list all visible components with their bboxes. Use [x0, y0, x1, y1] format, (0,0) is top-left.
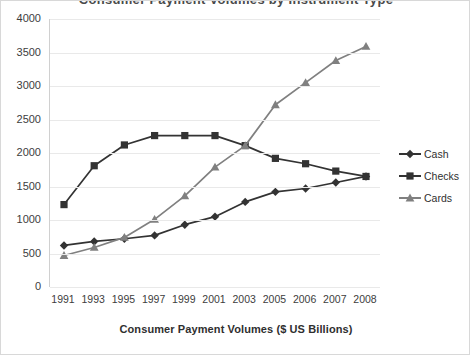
gridline	[50, 254, 380, 255]
square-marker	[181, 132, 188, 139]
gridline	[50, 19, 380, 20]
square-marker	[60, 201, 67, 208]
chart-title-text: Consumer Payment Volumes by Instrument T…	[79, 1, 393, 6]
y-axis-labels: 05001000150020002500300035004000	[1, 1, 45, 355]
x-axis-tick-label: 1997	[142, 293, 165, 305]
x-axis-tick-label: 1999	[172, 293, 195, 305]
diamond-marker	[60, 241, 68, 249]
gridline	[50, 53, 380, 54]
gridline	[50, 153, 380, 154]
square-marker	[362, 173, 369, 180]
gridline	[50, 120, 380, 121]
x-axis-tick-label: 2008	[353, 293, 376, 305]
x-axis-tick-label: 2003	[233, 293, 256, 305]
plot-area	[49, 19, 379, 287]
square-marker	[272, 155, 279, 162]
gridline	[50, 287, 380, 288]
y-axis-tick-label: 0	[3, 281, 41, 292]
x-axis-tick-label: 1993	[82, 293, 105, 305]
triangle-marker	[406, 193, 415, 201]
legend-label: Cards	[424, 192, 452, 204]
legend-label: Checks	[424, 170, 459, 182]
gridline	[50, 86, 380, 87]
diamond-marker	[403, 148, 417, 160]
series-cards	[60, 42, 371, 259]
legend-item-cards[interactable]: Cards	[399, 189, 469, 206]
diamond-marker	[150, 231, 158, 239]
triangle-marker	[362, 42, 371, 50]
plot-canvas	[49, 19, 379, 287]
legend-swatch	[399, 192, 421, 204]
diamond-marker	[271, 188, 279, 196]
x-axis-tick-label: 2005	[263, 293, 286, 305]
y-axis-tick-label: 3000	[3, 80, 41, 91]
legend-swatch	[399, 148, 421, 160]
y-axis-tick-label: 2000	[3, 147, 41, 158]
square-marker	[211, 132, 218, 139]
diamond-marker	[241, 198, 249, 206]
series-line	[64, 46, 366, 255]
diamond-marker	[332, 178, 340, 186]
x-axis-tick-label: 2001	[202, 293, 225, 305]
square-marker	[121, 141, 128, 148]
legend-label: Cash	[424, 148, 449, 160]
legend-swatch	[399, 170, 421, 182]
y-axis-tick-label: 500	[3, 248, 41, 259]
square-marker	[403, 170, 417, 182]
x-axis-tick-label: 1991	[51, 293, 74, 305]
series-cash	[60, 172, 370, 249]
triangle-marker	[211, 163, 220, 171]
chart-frame: Consumer Payment Volumes by Instrument T…	[0, 0, 470, 355]
legend-item-cash[interactable]: Cash	[399, 145, 469, 162]
square-marker	[302, 160, 309, 167]
y-axis-tick-label: 4000	[3, 13, 41, 24]
x-axis-tick-label: 1995	[112, 293, 135, 305]
triangle-marker	[120, 233, 129, 241]
y-axis-tick-label: 1500	[3, 181, 41, 192]
x-axis-labels: 1991199319951997199920012003200520062007…	[49, 293, 379, 309]
diamond-marker	[301, 184, 309, 192]
chart-title-cropped: Consumer Payment Volumes by Instrument T…	[1, 1, 470, 10]
square-marker	[151, 132, 158, 139]
square-marker	[406, 172, 413, 179]
square-marker	[332, 167, 339, 174]
y-axis-tick-label: 3500	[3, 47, 41, 58]
triangle-marker	[403, 192, 417, 204]
x-axis-title: Consumer Payment Volumes ($ US Billions)	[1, 323, 470, 335]
square-marker	[91, 162, 98, 169]
diamond-marker	[181, 220, 189, 228]
gridline	[50, 187, 380, 188]
x-axis-tick-label: 2006	[293, 293, 316, 305]
chart-legend: CashChecksCards	[399, 145, 469, 211]
gridline	[50, 220, 380, 221]
y-axis-tick-label: 1000	[3, 214, 41, 225]
diamond-marker	[406, 149, 414, 157]
legend-item-checks[interactable]: Checks	[399, 167, 469, 184]
x-axis-tick-label: 2007	[323, 293, 346, 305]
y-axis-tick-label: 2500	[3, 114, 41, 125]
